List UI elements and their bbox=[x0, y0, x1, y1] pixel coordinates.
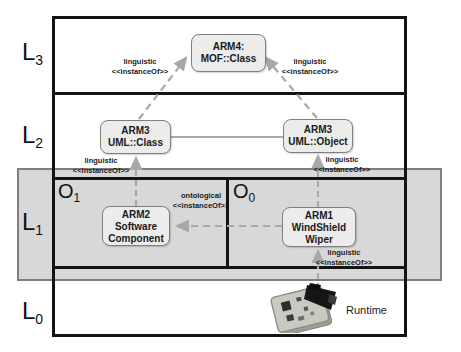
level-label-l3: L3 bbox=[22, 37, 52, 67]
divider-l2-l1 bbox=[52, 177, 407, 180]
node-arm1-windshield-wiper: ARM1 WindShield Wiper bbox=[282, 207, 356, 247]
edge-label-line: ontological bbox=[156, 191, 246, 201]
node-line: ARM2 bbox=[103, 209, 169, 221]
edge-label-linguistic-l2-right: linguistic <<instanceOf>> bbox=[297, 155, 387, 174]
runtime-label: Runtime bbox=[346, 304, 387, 316]
node-line: Software bbox=[103, 221, 169, 233]
edge-label-linguistic-l3-left: linguistic <<instanceOf>> bbox=[95, 57, 185, 76]
node-arm4-mof-class: ARM4: MOF::Class bbox=[191, 34, 266, 72]
node-line: UML::Object bbox=[284, 136, 352, 148]
edge-label-line: linguistic bbox=[299, 248, 389, 258]
divider-l3-l2 bbox=[52, 92, 407, 95]
edge-label-line: <<instanceOf>> bbox=[56, 166, 146, 176]
node-arm2-software-component: ARM2 Software Component bbox=[102, 206, 170, 246]
edge-label-linguistic-l3-right: linguistic <<instanceOf>> bbox=[265, 57, 355, 76]
edge-label-line: linguistic bbox=[265, 57, 355, 67]
level-label-sub: 1 bbox=[35, 222, 43, 238]
region-label-sub: 0 bbox=[249, 191, 256, 205]
edge-label-linguistic-l2-left: linguistic <<instanceOf>> bbox=[56, 156, 146, 175]
edge-label-ontological-instanceof: ontological <<instanceOf>> bbox=[156, 191, 246, 210]
edge-label-line: linguistic bbox=[297, 155, 387, 165]
level-label-base: L bbox=[22, 208, 35, 235]
level-label-l1: L1 bbox=[22, 207, 52, 237]
level-label-l2: L2 bbox=[22, 120, 52, 150]
level-label-sub: 3 bbox=[35, 52, 43, 68]
node-arm3-uml-class: ARM3 UML::Class bbox=[100, 120, 171, 154]
edge-label-line: linguistic bbox=[95, 57, 185, 67]
node-line: ARM4: bbox=[192, 41, 265, 53]
region-label-base: O bbox=[58, 180, 74, 202]
node-line: Component bbox=[103, 233, 169, 245]
edge-label-line: <<instanceOf>> bbox=[297, 165, 387, 175]
node-line: UML::Class bbox=[101, 137, 170, 149]
level-label-base: L bbox=[22, 297, 35, 324]
edge-label-line: <<instanceOf>> bbox=[95, 67, 185, 77]
node-line: ARM3 bbox=[284, 124, 352, 136]
diagram-canvas: L3 L2 L1 L0 O1 O0 ARM4: MOF::Class ARM3 … bbox=[0, 0, 461, 352]
region-label-sub: 1 bbox=[74, 191, 81, 205]
runtime-board-image bbox=[263, 281, 353, 333]
region-label-o1: O1 bbox=[58, 179, 80, 210]
edge-label-line: linguistic bbox=[56, 156, 146, 166]
node-line: ARM3 bbox=[101, 125, 170, 137]
edge-label-linguistic-runtime: linguistic <<instanceOf>> bbox=[299, 248, 389, 267]
node-line: WindShield bbox=[283, 222, 355, 234]
level-label-base: L bbox=[22, 38, 35, 65]
edge-label-line: <<instanceOf>> bbox=[265, 67, 355, 77]
node-line: Wiper bbox=[283, 234, 355, 246]
node-arm3-uml-object: ARM3 UML::Object bbox=[283, 119, 353, 153]
level-label-base: L bbox=[22, 121, 35, 148]
node-line: ARM1 bbox=[283, 210, 355, 222]
level-label-l0: L0 bbox=[22, 296, 52, 326]
level-label-sub: 2 bbox=[35, 135, 43, 151]
level-label-sub: 0 bbox=[35, 311, 43, 327]
edge-label-line: <<instanceOf>> bbox=[156, 201, 246, 211]
edge-label-line: <<instanceOf>> bbox=[299, 258, 389, 268]
node-line: MOF::Class bbox=[192, 53, 265, 65]
